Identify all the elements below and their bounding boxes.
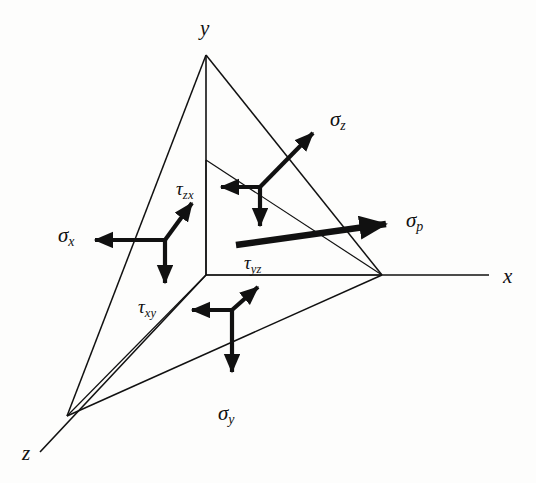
tau-zx-shear-arrow [165, 203, 192, 240]
tau-yz-shear-arrow [232, 287, 258, 310]
stress-label-sigma-y: σy [218, 403, 235, 424]
axis-label-z-text: z [22, 441, 30, 465]
tau-yz-subscript: yz [251, 262, 262, 276]
sigma-y-symbol: σ [218, 401, 228, 425]
sigma-x-symbol: σ [58, 223, 68, 247]
z-axis-line [40, 275, 206, 452]
sigma-z-symbol: σ [330, 107, 340, 131]
stress-label-sigma-p: σp [406, 210, 424, 231]
edge-top-face-to-x-vertex [206, 160, 382, 275]
stress-label-sigma-x: σx [58, 225, 75, 246]
shear-label-tau-xy: τxy [138, 297, 156, 316]
plane-edge-y-to-x [206, 55, 382, 275]
stress-diagram-figure: x y z σx σz σy σp τzx τxy τyz [0, 0, 536, 483]
stress-label-sigma-z: σz [330, 109, 346, 130]
shear-label-tau-yz: τyz [244, 253, 262, 272]
tetrahedron-edges-group [67, 160, 382, 416]
axis-label-y: y [200, 18, 209, 39]
diagram-canvas [0, 0, 536, 483]
axis-label-x: x [503, 266, 512, 287]
plane-edge-z-to-x [67, 275, 382, 416]
sigma-p-subscript: p [416, 219, 423, 234]
sigma-x-subscript: x [68, 234, 74, 249]
axis-label-z: z [22, 443, 30, 464]
axis-label-y-text: y [200, 16, 209, 40]
tau-xy-symbol: τ [138, 296, 145, 317]
tau-xy-subscript: xy [145, 306, 157, 320]
plane-edge-y-to-z [67, 55, 206, 416]
sigma-z-subscript: z [340, 118, 346, 133]
tau-zx-symbol: τ [176, 178, 183, 199]
sigma-p-arrow-group [236, 224, 386, 245]
sigma-y-triad-group [192, 287, 258, 372]
sigma-p-arrow [236, 224, 386, 245]
axis-label-x-text: x [503, 264, 512, 288]
sigma-p-symbol: σ [406, 208, 416, 232]
tau-zx-subscript: zx [183, 188, 194, 202]
edge-origin-to-z-vertex [67, 275, 206, 416]
axes-group [40, 55, 489, 452]
sigma-y-subscript: y [228, 412, 234, 427]
shear-label-tau-zx: τzx [176, 179, 194, 198]
sigma-x-triad-group [95, 203, 192, 283]
tau-yz-symbol: τ [244, 252, 251, 273]
